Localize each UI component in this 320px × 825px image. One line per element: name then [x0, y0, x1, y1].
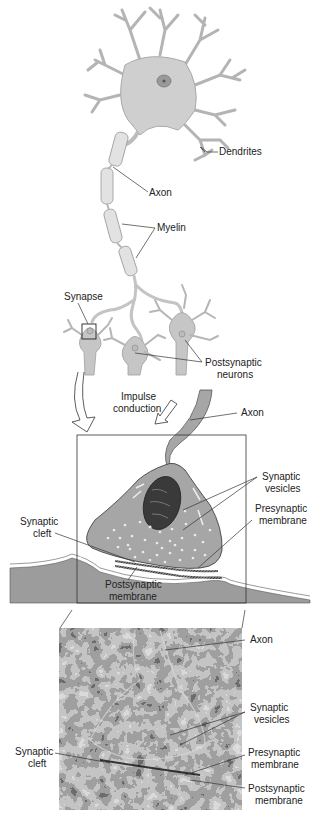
synaptic-vesicle	[170, 527, 173, 530]
synaptic-vesicle	[184, 522, 187, 525]
micro-cleft-label-line2: cleft	[28, 758, 47, 769]
postsynaptic-neurons-label-line2: neurons	[217, 369, 253, 380]
vesicles-label-line1: Synaptic	[262, 471, 300, 482]
micro-cleft-label-line1: Synaptic	[15, 746, 53, 757]
synaptic-vesicle	[191, 556, 194, 559]
synaptic-vesicle	[201, 540, 204, 543]
synaptic-vesicle	[133, 555, 136, 558]
vesicles-label-line2: vesicles	[265, 483, 301, 494]
synaptic-vesicle	[163, 560, 166, 563]
synaptic-vesicle	[118, 536, 121, 539]
neuron-overview-panel: Dendrites Axon Myelin Synapse Postsynapt…	[64, 8, 262, 380]
synaptic-vesicle	[193, 533, 196, 536]
synapse-micrograph-panel: Axon Synaptic vesicles Synaptic cleft Pr…	[15, 628, 305, 810]
synaptic-vesicle	[138, 520, 141, 523]
synaptic-vesicle	[158, 530, 161, 533]
zoom-arrow	[72, 372, 95, 432]
synaptic-vesicle	[180, 536, 183, 539]
micro-postsyn-label-line2: membrane	[255, 795, 303, 806]
synaptic-vesicle	[130, 534, 133, 537]
cleft-label-line2: cleft	[33, 528, 52, 539]
neuron-diagram: Dendrites Axon Myelin Synapse Postsynapt…	[0, 0, 320, 825]
synaptic-vesicle	[173, 543, 176, 546]
micro-vesicles-label-line2: vesicles	[254, 714, 290, 725]
impulse-label-line2: conduction	[113, 403, 161, 414]
synaptic-vesicle	[168, 551, 171, 554]
micro-vesicles-label-line1: Synaptic	[250, 702, 288, 713]
synaptic-vesicle	[178, 558, 181, 561]
synapse-label: Synapse	[64, 291, 103, 302]
cleft-label-line1: Synaptic	[20, 516, 58, 527]
synaptic-vesicle	[112, 528, 115, 531]
myelin-segments	[101, 131, 138, 277]
synaptic-vesicle	[180, 548, 183, 551]
synaptic-vesicle	[155, 541, 158, 544]
micrograph-image	[59, 628, 242, 810]
dendrites-label: Dendrites	[219, 146, 262, 157]
postsynaptic-neurons-label-line1: Postsynaptic	[205, 357, 262, 368]
micro-axon-label: Axon	[250, 634, 273, 645]
synaptic-vesicle	[141, 550, 144, 553]
synaptic-vesicle	[168, 539, 171, 542]
postsyn-label-line2: membrane	[109, 591, 157, 602]
synaptic-vesicle	[123, 523, 126, 526]
presyn-label-line2: membrane	[259, 515, 307, 526]
presyn-label-line1: Presynaptic	[255, 503, 307, 514]
synaptic-vesicle	[116, 545, 119, 548]
micro-presyn-label-line2: membrane	[251, 759, 299, 770]
postsyn-label-line1: Postsynaptic	[105, 579, 162, 590]
synaptic-vesicle	[106, 536, 109, 539]
synaptic-vesicle	[155, 553, 158, 556]
synaptic-vesicle	[128, 547, 131, 550]
synaptic-vesicle	[143, 538, 146, 541]
postsynaptic-neurons	[79, 313, 195, 376]
synaptic-vesicle	[126, 543, 129, 546]
synaptic-vesicle	[148, 525, 151, 528]
micro-presyn-label-line1: Presynaptic	[248, 747, 300, 758]
myelin-label: Myelin	[157, 222, 186, 233]
synaptic-vesicle	[193, 548, 196, 551]
synaptic-vesicle	[160, 546, 163, 549]
synaptic-vesicle	[208, 528, 211, 531]
micro-postsyn-label-line1: Postsynaptic	[248, 783, 305, 794]
synapse-schematic-panel: Impulse conduction Axon Synaptic vesicle…	[10, 390, 310, 603]
axon-label: Axon	[149, 187, 172, 198]
synaptic-vesicle	[148, 558, 151, 561]
impulse-label-line1: Impulse	[121, 391, 156, 402]
schematic-axon-label: Axon	[241, 407, 264, 418]
synaptic-vesicle	[203, 553, 206, 556]
cell-body	[121, 57, 197, 135]
